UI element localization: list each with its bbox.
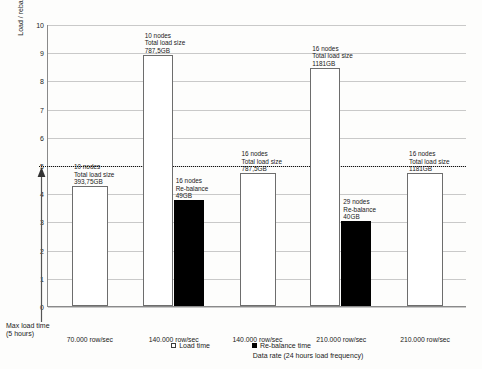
bar-annotation-4-line1: 16 nodes xyxy=(312,45,353,52)
bar-annotation-0-line2: Total load size xyxy=(74,171,115,178)
bar-annotation-3-line3: 787,5GB xyxy=(242,165,283,172)
max-load-arrow-icon xyxy=(37,167,46,322)
y-tick-label-10: 10 xyxy=(36,22,44,30)
bar-annotation-0-line1: 10 nodes xyxy=(74,163,115,170)
plot-area: 012345678910 10 nodesTotal load size393,… xyxy=(47,25,466,307)
gridline-y-8: 8 xyxy=(48,81,466,82)
legend: Load time Re-balance time xyxy=(0,342,482,349)
bar-load-6 xyxy=(407,173,443,306)
legend-item-rebalance-time: Re-balance time xyxy=(252,342,311,349)
bar-annotation-3: 16 nodesTotal load size787,5GB xyxy=(242,150,283,172)
bar-annotation-6-line3: 1181GB xyxy=(409,165,450,172)
bar-load-1 xyxy=(143,55,173,306)
max-load-time-line1: Max load time xyxy=(6,322,50,330)
y-tick-label-9: 9 xyxy=(40,50,44,58)
legend-swatch-load-time-icon xyxy=(171,343,176,348)
bar-annotation-2-line3: 49GB xyxy=(176,192,209,199)
gridline-y-6: 6 xyxy=(48,138,466,139)
bar-annotation-5: 29 nodesRe-balance40GB xyxy=(343,198,376,220)
bar-annotation-6-line2: Total load size xyxy=(409,158,450,165)
bar-annotation-3-line1: 16 nodes xyxy=(242,150,283,157)
bar-annotation-6: 16 nodesTotal load size1181GB xyxy=(409,150,450,172)
bar-load-3 xyxy=(240,173,276,306)
legend-label-load-time: Load time xyxy=(179,342,210,349)
bar-annotation-2-line2: Re-balance xyxy=(176,185,209,192)
bar-rebalance-2 xyxy=(174,200,204,306)
bar-annotation-1-line2: Total load size xyxy=(145,39,186,46)
max-load-time-label: Max load time (5 hours) xyxy=(6,322,50,339)
bar-annotation-1: 10 nodesTotal load size787,5GB xyxy=(145,32,186,54)
bar-annotation-2: 16 nodesRe-balance49GB xyxy=(176,177,209,199)
legend-item-load-time: Load time xyxy=(171,342,210,349)
bar-chart-figure: 012345678910 10 nodesTotal load size393,… xyxy=(0,0,482,369)
legend-swatch-rebalance-time-icon xyxy=(252,343,257,348)
y-axis-title: Load / rebalance time (hours) xyxy=(17,0,24,85)
bar-annotation-4-line2: Total load size xyxy=(312,52,353,59)
y-tick-label-6: 6 xyxy=(40,135,44,143)
gridline-y-7: 7 xyxy=(48,110,466,111)
bar-load-0 xyxy=(72,186,108,306)
bar-annotation-5-line3: 40GB xyxy=(343,213,376,220)
bar-annotation-4-line3: 1181GB xyxy=(312,60,353,67)
bar-rebalance-5 xyxy=(341,221,371,306)
bar-annotation-5-line2: Re-balance xyxy=(343,206,376,213)
y-tick-label-8: 8 xyxy=(40,78,44,86)
bar-annotation-5-line1: 29 nodes xyxy=(343,198,376,205)
gridline-y-0: 0 xyxy=(48,307,466,308)
legend-label-rebalance-time: Re-balance time xyxy=(260,342,311,349)
bar-load-4 xyxy=(310,68,340,306)
bar-annotation-1-line3: 787,5GB xyxy=(145,47,186,54)
y-tick-label-7: 7 xyxy=(40,107,44,115)
x-axis-title: Data rate (24 hours load frequency) xyxy=(188,352,428,359)
bar-annotation-6-line1: 16 nodes xyxy=(409,150,450,157)
bar-annotation-3-line2: Total load size xyxy=(242,158,283,165)
bar-annotation-1-line1: 10 nodes xyxy=(145,32,186,39)
max-load-time-line2: (5 hours) xyxy=(6,330,50,338)
bar-annotation-2-line1: 16 nodes xyxy=(176,177,209,184)
gridline-y-9: 9 xyxy=(48,53,466,54)
gridline-y-10: 10 xyxy=(48,25,466,26)
bar-annotation-0: 10 nodesTotal load size393,75GB xyxy=(74,163,115,185)
bar-annotation-4: 16 nodesTotal load size1181GB xyxy=(312,45,353,67)
bar-annotation-0-line3: 393,75GB xyxy=(74,178,115,185)
